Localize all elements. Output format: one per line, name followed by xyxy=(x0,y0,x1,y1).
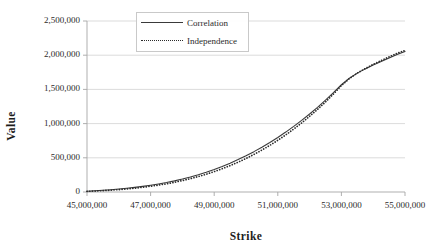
y-tick-label: 2,000,000 xyxy=(0,49,80,59)
legend-label-correlation: Correlation xyxy=(187,19,228,28)
legend-item-independence: Independence xyxy=(141,32,246,50)
x-tick-label: 53,000,000 xyxy=(308,200,374,210)
x-tick-label: 55,000,000 xyxy=(372,200,438,210)
legend-label-independence: Independence xyxy=(187,37,237,46)
legend-swatch-solid-line-icon xyxy=(141,18,183,28)
y-tick-label: 1,500,000 xyxy=(0,83,80,93)
x-axis-title: Strike xyxy=(87,226,405,244)
y-tick-label: 500,000 xyxy=(0,152,80,162)
chart-container: Value Correlation Independence Strike 05… xyxy=(0,0,443,251)
x-tick-label: 51,000,000 xyxy=(245,200,311,210)
series-line-2 xyxy=(87,50,405,191)
x-axis-title-text: Strike xyxy=(230,230,262,242)
y-tick-label: 0 xyxy=(0,186,80,196)
x-tick-label: 45,000,000 xyxy=(54,200,120,210)
y-tick-label: 1,000,000 xyxy=(0,118,80,128)
x-tick-label: 49,000,000 xyxy=(181,200,247,210)
x-tick-label: 47,000,000 xyxy=(118,200,184,210)
legend: Correlation Independence xyxy=(136,12,249,52)
y-tick-label: 2,500,000 xyxy=(0,15,80,25)
legend-swatch-dotted-line-icon xyxy=(141,36,183,46)
legend-item-correlation: Correlation xyxy=(141,14,246,32)
